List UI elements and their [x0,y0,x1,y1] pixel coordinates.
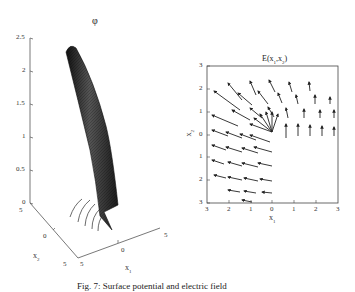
x-tick-label: 2 [227,206,231,213]
x2-axis-label: x2 [33,252,40,263]
x-tick-label: 2 [314,206,318,213]
y-tick-label: 3 [199,62,203,69]
z-tick-label: 0.5 [16,166,25,173]
y-tick-label: 1 [199,153,203,160]
x2-tick-label: 5 [63,261,67,268]
x1-tick-label: 5 [164,232,168,239]
surface-plot: φ 2.5 2 1.5 1 0.5 0 5 0 5 x2 5 0 5 x1 [0,0,180,270]
y-label-text: x [184,133,193,137]
x-axis-label: x1 [269,214,276,225]
quiver-plot-graphics [180,0,355,270]
x1-tick-label: 0 [121,247,125,254]
figure-caption: Fig. 7: Surface potential and electric f… [77,281,227,291]
z-tick-label: 1 [22,133,26,140]
x-tick-label: 1 [292,206,296,213]
y-tick-label: 0 [199,131,203,138]
surface-plot-graphics [0,0,180,270]
y-tick-label: 2 [199,85,203,92]
x1-axis-label: x1 [125,264,132,275]
x2-tick-label: 5 [19,207,23,214]
x-tick-label: 1 [249,206,253,213]
x-tick-label: 3 [336,206,340,213]
x1-tick-label: 5 [80,261,84,268]
x-label-sub: 1 [273,219,276,224]
z-tick-label: 2 [22,67,26,74]
x1-label-sub: 1 [129,269,132,274]
y-label-sub: 2 [190,130,195,133]
z-tick-label: 0 [22,199,26,206]
x2-label-sub: 2 [37,257,40,262]
surface-plot-title: φ [92,15,98,26]
x-tick-label: 0 [270,206,274,213]
z-tick-label: 1.5 [16,100,25,107]
y-axis-label: x2 [185,130,196,137]
x-tick-label: 3 [205,206,209,213]
y-tick-label: 3 [199,199,203,206]
y-tick-label: 2 [199,176,203,183]
x2-tick-label: 0 [43,233,47,240]
quiver-plot: E(x1,x2) [180,0,355,270]
y-tick-label: 1 [199,108,203,115]
z-tick-label: 2.5 [16,34,25,41]
